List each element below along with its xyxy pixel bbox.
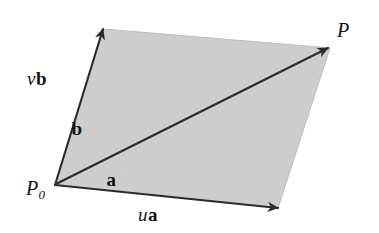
parallelogram-fill [55,29,330,208]
label-point-p0-subscript: 0 [38,187,45,202]
figure-canvas [0,0,379,233]
label-vector-ua-name: a [148,204,158,225]
label-vector-vb: vb [27,69,47,88]
label-vector-ua-scalar: u [138,204,148,225]
label-point-p-base: P [337,19,349,41]
label-point-p: P [337,20,349,40]
label-vector-a-name: a [107,169,117,190]
label-vector-vb-scalar: v [27,68,35,89]
label-vector-a: a [106,170,116,189]
label-vector-b-name: b [72,118,83,139]
label-vector-vb-name: b [36,68,47,89]
vector-parallelogram-figure: P0 P vb b a ua [0,0,379,233]
label-point-p0: P0 [26,178,45,201]
label-vector-ua: ua [138,205,158,224]
label-point-p0-base: P [26,177,38,199]
label-vector-b: b [71,119,82,138]
